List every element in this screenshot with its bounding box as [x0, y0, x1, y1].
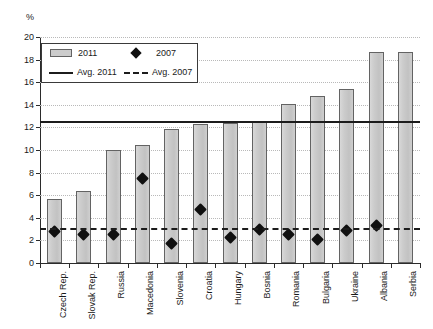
bar [252, 122, 267, 263]
x-tick-mark [362, 263, 363, 268]
bar [398, 52, 413, 263]
x-axis-line [40, 263, 421, 264]
y-tick-mark [36, 105, 40, 106]
legend-label-2011: 2011 [78, 48, 97, 59]
x-tick-label: Hungary [234, 271, 243, 305]
reference-line [40, 228, 420, 230]
y-tick-label: 16 [14, 78, 34, 87]
x-tick-label: Croatia [205, 271, 214, 300]
y-tick-mark [36, 37, 40, 38]
x-tick-mark [215, 263, 216, 268]
x-tick-label: Macedonia [146, 271, 155, 315]
x-tick-mark [332, 263, 333, 268]
reference-line [40, 121, 420, 123]
x-tick-label: Serbia [409, 271, 418, 297]
x-tick-mark [186, 263, 187, 268]
legend-entry-2011: 2011 [50, 45, 114, 63]
x-tick-mark [98, 263, 99, 268]
legend-entry-2007: 2007 [128, 45, 192, 63]
bar-swatch-icon [50, 49, 72, 57]
diamond-marker-icon [130, 47, 141, 58]
legend-row-1: 2011 2007 [42, 45, 199, 63]
y-tick-mark [36, 127, 40, 128]
bar [76, 191, 91, 263]
solid-line-icon [49, 72, 73, 74]
y-tick-label: 20 [14, 33, 34, 42]
y-tick-mark [36, 60, 40, 61]
y-tick-mark [36, 150, 40, 151]
x-tick-label: Czech Rep. [59, 271, 68, 318]
chart-legend: 2011 2007 Avg. 2011 Avg. 2007 [41, 43, 198, 83]
gridline [40, 105, 420, 106]
x-tick-mark [245, 263, 246, 268]
y-tick-label: 2 [14, 236, 34, 245]
x-tick-label: Russia [117, 271, 126, 299]
x-tick-label: Slovenia [176, 271, 185, 306]
bar [339, 89, 354, 263]
x-tick-label: Romania [292, 271, 301, 307]
y-tick-label: 6 [14, 191, 34, 200]
legend-row-2: Avg. 2011 Avg. 2007 [42, 64, 199, 82]
x-tick-label: Bosnia [263, 271, 272, 299]
y-tick-mark [36, 82, 40, 83]
dashed-line-icon [124, 72, 148, 74]
x-tick-mark [128, 263, 129, 268]
y-tick-label: 10 [14, 146, 34, 155]
legend-entry-avg-2011: Avg. 2011 [49, 64, 121, 82]
x-tick-mark [420, 263, 421, 268]
gridline [40, 37, 420, 38]
y-tick-label: 4 [14, 214, 34, 223]
y-tick-label: 12 [14, 123, 34, 132]
bar-chart: % 02468101214161820 Czech Rep.Slovak Rep… [0, 0, 433, 329]
x-tick-mark [69, 263, 70, 268]
y-tick-mark [36, 240, 40, 241]
y-tick-label: 14 [14, 101, 34, 110]
y-tick-mark [36, 218, 40, 219]
x-tick-mark [274, 263, 275, 268]
x-tick-mark [391, 263, 392, 268]
y-tick-mark [36, 173, 40, 174]
x-tick-mark [157, 263, 158, 268]
bar [193, 124, 208, 263]
legend-label-2007: 2007 [156, 48, 176, 59]
x-tick-label: Albania [380, 271, 389, 301]
x-tick-label: Ukraine [351, 271, 360, 302]
y-tick-label: 8 [14, 169, 34, 178]
bar [106, 150, 121, 263]
x-tick-label: Slovak Rep. [88, 271, 97, 320]
y-tick-mark [36, 195, 40, 196]
y-axis-unit-label: % [26, 12, 34, 22]
bar [135, 145, 150, 263]
legend-label-avg-2007: Avg. 2007 [152, 67, 192, 78]
y-tick-label: 0 [14, 259, 34, 268]
x-tick-mark [40, 263, 41, 268]
legend-entry-avg-2007: Avg. 2007 [124, 64, 198, 82]
x-tick-mark [303, 263, 304, 268]
x-tick-label: Bulgaria [322, 271, 331, 304]
y-tick-label: 18 [14, 56, 34, 65]
legend-label-avg-2011: Avg. 2011 [77, 67, 117, 78]
